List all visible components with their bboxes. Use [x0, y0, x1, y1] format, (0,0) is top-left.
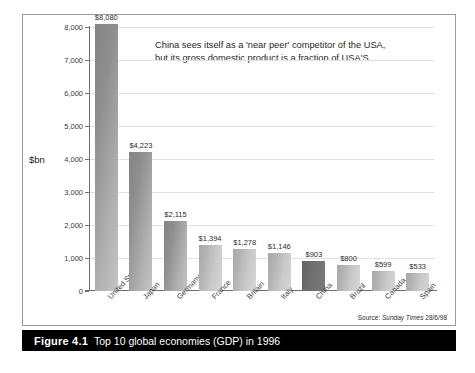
bar-group[interactable]: $2,115Germany: [164, 27, 187, 291]
figure-caption-title: Top 10 global economies (GDP) in 1996: [94, 335, 280, 347]
bar-value-label: $533: [409, 262, 426, 271]
bar-value-label: $1,278: [233, 238, 256, 247]
y-tick-label: 5,000: [64, 122, 83, 131]
y-tick-label: 8,000: [64, 23, 83, 32]
y-tick-label: 4,000: [64, 155, 83, 164]
bar-category-label: Japan: [141, 295, 148, 301]
bar-group[interactable]: $599Canada: [372, 27, 395, 291]
y-tick-label: 7,000: [64, 56, 83, 65]
bar-value-label: $1,146: [268, 242, 291, 251]
bar-category-label: Spain: [418, 295, 425, 301]
chart-frame: $bn China sees itself as a 'near peer' c…: [22, 14, 456, 326]
bar-category-label: Germany: [175, 295, 182, 301]
y-tick-label: 1,000: [64, 254, 83, 263]
bar-rect[interactable]: [164, 221, 187, 291]
y-tick-label: 0: [79, 287, 83, 296]
bar-group[interactable]: $533Spain: [406, 27, 429, 291]
source-publication: Sunday Times: [382, 314, 424, 321]
bar-value-label: $599: [375, 260, 392, 269]
bar-value-label: $800: [340, 254, 357, 263]
bar-category-label: China: [314, 295, 321, 301]
bar-value-label: $8,080: [95, 13, 118, 22]
bar-category-label: Britain: [245, 295, 252, 301]
bar-category-label: Brazil: [348, 295, 355, 301]
bar-group[interactable]: $4,223Japan: [129, 27, 152, 291]
y-tick-label: 6,000: [64, 89, 83, 98]
y-tick-mark: [85, 291, 89, 292]
source-date: 28/6/98: [425, 314, 447, 321]
y-axis-title: $bn: [29, 154, 45, 165]
bar-rect[interactable]: [199, 245, 222, 291]
bar-rect[interactable]: [129, 152, 152, 291]
bar-group[interactable]: $1,146Italy: [268, 27, 291, 291]
bar-group[interactable]: $800Brazil: [337, 27, 360, 291]
bar-category-label: Canada: [383, 295, 390, 301]
bars-layer: $8,080United States$4,223Japan$2,115Germ…: [89, 27, 435, 291]
bar-value-label: $4,223: [129, 141, 152, 150]
source-note: Source: Sunday Times 28/6/98: [358, 314, 447, 321]
bar-rect[interactable]: [233, 249, 256, 291]
figure-container: $bn China sees itself as a 'near peer' c…: [22, 14, 458, 355]
source-prefix: Source:: [358, 314, 380, 321]
bar-value-label: $903: [306, 250, 323, 259]
bar-category-label: United States: [106, 295, 113, 301]
bar-group[interactable]: $8,080United States: [95, 27, 118, 291]
bar-group[interactable]: $1,278Britain: [233, 27, 256, 291]
figure-caption-number: Figure 4.1: [34, 335, 88, 347]
figure-caption-bar: Figure 4.1 Top 10 global economies (GDP)…: [22, 330, 456, 351]
y-tick-label: 3,000: [64, 188, 83, 197]
bar-group[interactable]: $1,394France: [199, 27, 222, 291]
bar-value-label: $1,394: [199, 234, 222, 243]
bar-category-label: France: [210, 295, 217, 301]
bar-category-label: Italy: [279, 295, 286, 301]
y-tick-label: 2,000: [64, 221, 83, 230]
bar-group[interactable]: $903China: [302, 27, 325, 291]
bar-rect[interactable]: [95, 24, 118, 291]
bar-value-label: $2,115: [164, 210, 186, 219]
plot-area: 01,0002,0003,0004,0005,0006,0007,0008,00…: [89, 27, 435, 291]
